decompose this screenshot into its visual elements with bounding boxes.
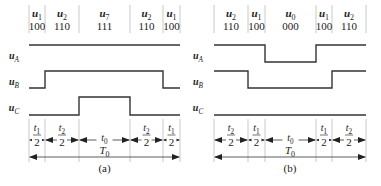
panel-b: u2110u1100u0000u1100u2110uAuBuCt22t12t0t… — [193, 5, 366, 175]
vector-code: 000 — [282, 20, 299, 32]
vector-code: 100 — [163, 20, 180, 32]
signal-label: uA — [193, 50, 204, 64]
panel-a: u1100u2110u7111u2110u1100uAuBuCt12t22t0t… — [9, 5, 180, 175]
panel-caption: (b) — [284, 162, 297, 175]
vector-code: 100 — [316, 20, 333, 32]
interval-denominator: 2 — [144, 136, 150, 148]
signal-label: uC — [9, 102, 20, 116]
signal-label: uB — [9, 76, 20, 90]
vector-code: 110 — [223, 20, 240, 32]
signal-label: uA — [9, 50, 20, 64]
interval-denominator: 2 — [228, 136, 234, 148]
vector-code: 110 — [54, 20, 71, 32]
vector-code: 111 — [97, 20, 113, 32]
vector-code: 100 — [248, 20, 265, 32]
interval-denominator: 2 — [254, 136, 260, 148]
interval-denominator: 2 — [346, 136, 352, 148]
interval-denominator: 2 — [59, 136, 65, 148]
interval-denominator: 2 — [34, 136, 40, 148]
vector-code: 110 — [341, 20, 358, 32]
signal-waveform — [214, 45, 366, 62]
interval-denominator: 2 — [169, 136, 175, 148]
signal-label: uB — [193, 76, 204, 90]
vector-code: 110 — [138, 20, 155, 32]
svpwm-switching-diagram: u1100u2110u7111u2110u1100uAuBuCt12t22t0t… — [0, 0, 381, 186]
panel-caption: (a) — [98, 162, 111, 175]
vector-code: 100 — [29, 20, 46, 32]
signal-label: uC — [193, 102, 204, 116]
signal-waveform — [214, 71, 366, 88]
signal-waveform — [29, 71, 180, 88]
interval-denominator: 2 — [321, 136, 327, 148]
signal-waveform — [29, 97, 180, 115]
